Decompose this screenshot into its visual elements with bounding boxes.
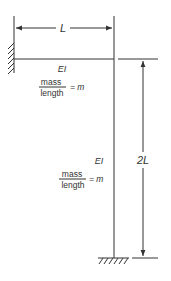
bottom-fixed-support: [98, 258, 129, 264]
column-stiffness-label: EI: [95, 156, 104, 166]
left-fixed-support: [8, 43, 14, 74]
column-mass-denominator: length: [61, 180, 84, 190]
beam-mass-denominator: length: [40, 88, 63, 98]
column-mass-numerator: mass: [62, 169, 82, 179]
column-mass-equals: = m: [89, 174, 103, 184]
dimension-horizontal: L: [14, 16, 112, 43]
column-properties: EI mass length = m: [59, 156, 104, 190]
beam-properties: EI mass length = m: [39, 64, 84, 98]
beam-stiffness-label: EI: [58, 64, 67, 74]
dimension-label-2L: 2L: [136, 154, 149, 166]
beam-mass-numerator: mass: [41, 77, 61, 87]
beam-mass-equals: = m: [70, 82, 84, 92]
frame-diagram: L 2L EI mass length = m EI mass length =…: [0, 0, 171, 281]
dimension-vertical: 2L: [118, 59, 158, 258]
dimension-label-L: L: [60, 22, 66, 34]
